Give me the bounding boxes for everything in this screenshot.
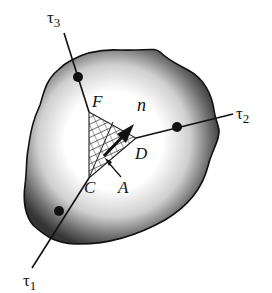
tau1-point: [54, 206, 64, 216]
tau2-label: τ2: [236, 104, 249, 126]
vertex-c-label: C: [84, 178, 96, 197]
tau1-label: τ1: [23, 271, 36, 293]
normal-n-label: n: [137, 95, 146, 115]
tau3-label: τ3: [47, 8, 60, 30]
tau2-point: [172, 122, 182, 132]
vertex-d-label: D: [134, 144, 148, 163]
tau3-point: [73, 72, 83, 82]
continuum-body-diagram: τ3 τ2 τ1 F n D C A: [0, 0, 272, 293]
vertex-f-label: F: [91, 92, 103, 111]
area-a-label: A: [117, 178, 129, 197]
